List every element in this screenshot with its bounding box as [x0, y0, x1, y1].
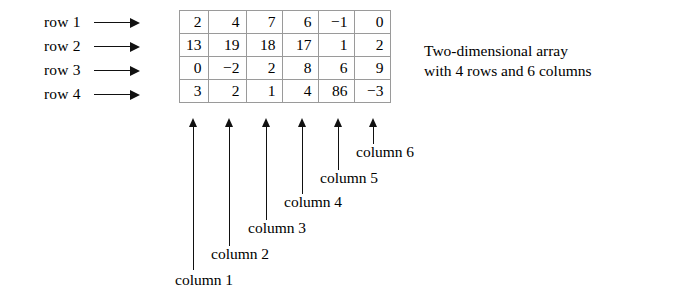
row-label-text-2: row 2 — [44, 37, 81, 55]
cell-r3c1: 0 — [180, 57, 209, 80]
row-label-group-3: row 3 — [44, 58, 140, 82]
column-arrow-up-icon-2 — [225, 118, 234, 246]
two-dimensional-array-figure: row 1 row 2 row 3 row 4 2 4 7 6 −1 — [0, 0, 689, 302]
cell-r3c5: 6 — [318, 57, 354, 80]
figure-caption: Two-dimensional array with 4 rows and 6 … — [424, 41, 591, 81]
column-arrow-up-icon-4 — [298, 118, 307, 194]
table-row: 3 2 1 4 86 −3 — [180, 80, 391, 103]
cell-r3c6: 9 — [354, 57, 390, 80]
cell-r4c4: 4 — [282, 80, 318, 103]
row-label-group-2: row 2 — [44, 34, 140, 58]
table-row: 0 −2 2 8 6 9 — [180, 57, 391, 80]
cell-r2c1: 13 — [180, 34, 209, 57]
cell-r1c1: 2 — [180, 11, 209, 34]
cell-r1c4: 6 — [282, 11, 318, 34]
row-label-text-1: row 1 — [44, 13, 81, 31]
caption-line-2: with 4 rows and 6 columns — [424, 61, 591, 81]
cell-r2c4: 17 — [282, 34, 318, 57]
cell-r2c5: 1 — [318, 34, 354, 57]
cell-r3c2: −2 — [208, 57, 246, 80]
column-label-4: column 4 — [284, 194, 342, 210]
cell-r4c5: 86 — [318, 80, 354, 103]
row-label-text-4: row 4 — [44, 85, 81, 103]
cell-r4c2: 2 — [208, 80, 246, 103]
column-label-1: column 1 — [175, 272, 233, 288]
cell-r1c3: 7 — [246, 11, 282, 34]
cell-r2c2: 19 — [208, 34, 246, 57]
array-grid: 2 4 7 6 −1 0 13 19 18 17 1 2 0 −2 2 8 6 — [179, 10, 391, 103]
column-label-6: column 6 — [356, 144, 414, 160]
cell-r4c1: 3 — [180, 80, 209, 103]
cell-r2c6: 2 — [354, 34, 390, 57]
column-arrow-up-icon-5 — [334, 118, 343, 170]
column-label-3: column 3 — [248, 220, 306, 236]
column-label-5: column 5 — [320, 170, 378, 186]
table-row: 2 4 7 6 −1 0 — [180, 11, 391, 34]
column-label-2: column 2 — [211, 246, 269, 262]
caption-line-1: Two-dimensional array — [424, 41, 591, 61]
cell-r4c6: −3 — [354, 80, 390, 103]
table-row: 13 19 18 17 1 2 — [180, 34, 391, 57]
cell-r1c2: 4 — [208, 11, 246, 34]
column-arrow-up-icon-1 — [189, 118, 198, 270]
row-label-text-3: row 3 — [44, 61, 81, 79]
row-label-group-1: row 1 — [44, 10, 140, 34]
column-arrow-up-icon-3 — [262, 118, 271, 220]
column-arrow-up-icon-6 — [369, 118, 378, 144]
cell-r1c5: −1 — [318, 11, 354, 34]
row-label-group-4: row 4 — [44, 82, 140, 106]
cell-r3c4: 8 — [282, 57, 318, 80]
cell-r4c3: 1 — [246, 80, 282, 103]
row-arrow-right-icon-3 — [94, 64, 140, 76]
row-arrow-right-icon-4 — [94, 88, 140, 100]
row-arrow-right-icon-1 — [94, 16, 140, 28]
cell-r1c6: 0 — [354, 11, 390, 34]
cell-r2c3: 18 — [246, 34, 282, 57]
cell-r3c3: 2 — [246, 57, 282, 80]
row-arrow-right-icon-2 — [94, 40, 140, 52]
